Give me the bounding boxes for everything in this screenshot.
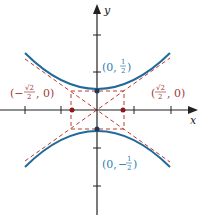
left-point [70, 108, 75, 113]
svg-text:1: 1 [127, 155, 131, 163]
svg-text:2: 2 [158, 93, 162, 101]
svg-text:√2: √2 [156, 84, 165, 92]
svg-text:(−: (− [10, 87, 24, 100]
svg-text:2: 2 [121, 67, 125, 75]
right-point [121, 108, 126, 113]
hyperbola-diagram: y x (0, 1 2 ) (0, − 1 2 ) (− √2 2 , 0) (… [0, 0, 199, 215]
right-point-label: ( √2 2 , 0) [151, 84, 185, 101]
y-axis-label: y [103, 4, 111, 17]
svg-text:, 0): , 0) [36, 87, 54, 100]
svg-text:): ) [127, 61, 131, 74]
top-vertex-point [95, 89, 100, 94]
svg-text:1: 1 [121, 58, 125, 66]
bottom-vertex-label: (0, − 1 2 ) [102, 155, 137, 172]
top-vertex-label: (0, 1 2 ) [102, 58, 131, 75]
svg-text:(0,: (0, [102, 61, 117, 74]
bottom-vertex-point [95, 127, 100, 132]
left-point-label: (− √2 2 , 0) [10, 84, 54, 101]
x-axis-label: x [190, 114, 197, 127]
svg-text:2: 2 [127, 164, 131, 172]
svg-text:(: ( [151, 87, 155, 100]
svg-text:√2: √2 [25, 84, 34, 92]
svg-text:): ) [133, 158, 137, 171]
x-axis-arrow-icon [188, 106, 198, 114]
svg-text:(0,: (0, [102, 158, 117, 171]
svg-text:−: − [118, 158, 127, 171]
svg-text:, 0): , 0) [167, 87, 185, 100]
y-axis-arrow-icon [93, 4, 101, 14]
svg-text:2: 2 [27, 93, 31, 101]
